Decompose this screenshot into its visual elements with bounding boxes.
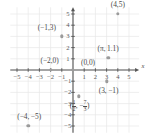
point-label: (12, −73) xyxy=(70,100,90,112)
point-label: (3, −1) xyxy=(99,87,119,94)
point-label: (4,5) xyxy=(111,1,125,8)
point-label: (−2,0) xyxy=(40,57,58,64)
point-label: (−1,3) xyxy=(38,25,56,32)
point-label: (π, 1.1) xyxy=(98,45,119,52)
coordinate-plane-figure: −5−4−3−2−11234554321−1−2−3−4−5x (4,5)(−1… xyxy=(0,0,152,140)
point-label: (−4, −5) xyxy=(17,113,41,120)
comma-and-minus: , − xyxy=(76,101,84,110)
point-labels-layer: (4,5)(−1,3)(π, 1.1)(−2,0)(0,0)(3, −1)(12… xyxy=(0,0,152,140)
point-label: (0,0) xyxy=(81,59,95,66)
paren-close: ) xyxy=(87,101,89,110)
